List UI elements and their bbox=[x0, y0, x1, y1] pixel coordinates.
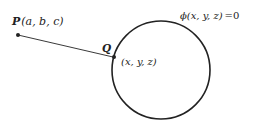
point-p-coords: (a, b, c) bbox=[21, 15, 63, 28]
point-p-dot bbox=[16, 33, 20, 37]
point-p-name: P bbox=[11, 15, 21, 28]
surface-equation-label: ϕ(x, y, z)=0 bbox=[180, 10, 239, 21]
surface-circle bbox=[112, 21, 210, 119]
point-q-coords: (x, y, z) bbox=[121, 56, 157, 67]
distance-to-surface-diagram: P(a, b, c) Q (x, y, z) ϕ(x, y, z)=0 bbox=[0, 0, 257, 127]
point-q-name: Q bbox=[102, 42, 111, 54]
phi-args: (x, y, z) bbox=[187, 10, 223, 21]
point-p-label: P(a, b, c) bbox=[11, 15, 64, 28]
segment-pq bbox=[18, 35, 113, 57]
point-q-dot bbox=[112, 55, 116, 59]
phi-equals-zero: =0 bbox=[225, 10, 240, 21]
